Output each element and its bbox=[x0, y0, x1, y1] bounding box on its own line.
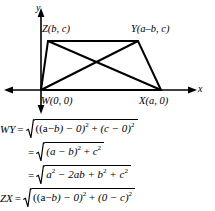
eq4-p1: ((a bbox=[33, 191, 45, 203]
eq4-exp2: 2 bbox=[129, 190, 133, 198]
equation-3-radicand: a2 − 2ab + b2 + c2 bbox=[45, 165, 131, 185]
coordinate-plane-figure: y x Z(b, c) Y(a–b, c) W(0, 0) X(a, 0) bbox=[0, 0, 215, 120]
figure-graphic bbox=[0, 0, 215, 120]
equation-1-lhs: WY bbox=[0, 118, 15, 135]
equation-4-equals: = bbox=[13, 187, 23, 204]
equation-2-equals: = bbox=[26, 141, 36, 158]
eq3-exp3: 2 bbox=[124, 167, 128, 175]
eq4-p3: b) − 0) bbox=[52, 191, 83, 203]
radical-sign-icon bbox=[26, 119, 35, 139]
eq4-exp1: 2 bbox=[83, 190, 87, 198]
eq1-exp1: 2 bbox=[85, 121, 89, 129]
equation-line-4: ZX = ((a−b) − 0)2 + (0 − c)2 bbox=[0, 187, 215, 210]
eq2-exp1: 2 bbox=[77, 144, 81, 152]
eq4-p4: (0 − c) bbox=[98, 191, 129, 203]
equation-1-equals: = bbox=[15, 118, 25, 135]
equation-1-radical: ((a−b) − 0)2 + (c − 0)2 bbox=[26, 119, 138, 139]
equation-line-2: = (a − b)2 + c2 bbox=[0, 141, 215, 164]
eq2-plus: + bbox=[84, 145, 90, 157]
eq3-exp2: 2 bbox=[103, 167, 107, 175]
vertex-label-w: W(0, 0) bbox=[41, 96, 73, 107]
eq2-exp2: 2 bbox=[98, 144, 102, 152]
eq3-plus2: + c bbox=[109, 168, 124, 180]
eq1-p1: ((a bbox=[36, 122, 48, 134]
equation-1-radicand: ((a−b) − 0)2 + (c − 0)2 bbox=[35, 119, 138, 139]
equation-4-radicand: ((a−b) − 0)2 + (0 − c)2 bbox=[32, 188, 135, 208]
equation-2-radical: (a − b)2 + c2 bbox=[36, 142, 104, 162]
eq3-exp1: 2 bbox=[52, 167, 56, 175]
eq1-p4: (c − 0) bbox=[100, 122, 131, 134]
diagonal-WY bbox=[41, 41, 138, 90]
vertex-label-x: X(a, 0) bbox=[139, 96, 168, 107]
equation-line-1: WY = ((a−b) − 0)2 + (c − 0)2 bbox=[0, 118, 215, 141]
radical-sign-icon bbox=[36, 165, 45, 185]
eq4-plus: + bbox=[89, 191, 95, 203]
figure-page: y x Z(b, c) Y(a–b, c) W(0, 0) X(a, 0) WY… bbox=[0, 0, 215, 211]
eq3-plus1: + b bbox=[87, 168, 103, 180]
equation-2-radicand: (a − b)2 + c2 bbox=[45, 142, 104, 162]
radical-sign-icon bbox=[23, 188, 32, 208]
eq3-minus: − 2ab bbox=[58, 168, 85, 180]
equation-3-radical: a2 − 2ab + b2 + c2 bbox=[36, 165, 131, 185]
diagonals bbox=[41, 41, 161, 90]
derivation-equations: WY = ((a−b) − 0)2 + (c − 0)2 = bbox=[0, 118, 215, 210]
diagonal-ZX bbox=[48, 41, 161, 90]
equation-4-radical: ((a−b) − 0)2 + (0 − c)2 bbox=[23, 188, 135, 208]
eq1-plus: + bbox=[91, 122, 97, 134]
equation-4-lhs: ZX bbox=[0, 187, 13, 204]
eq2-p1: (a − b) bbox=[46, 145, 77, 157]
vertex-label-y: Y(a–b, c) bbox=[131, 24, 170, 35]
y-axis-label: y bbox=[36, 3, 40, 13]
eq1-p3: b) − 0) bbox=[54, 122, 85, 134]
equation-3-equals: = bbox=[26, 164, 36, 181]
eq1-exp2: 2 bbox=[131, 121, 135, 129]
radical-sign-icon bbox=[36, 142, 45, 162]
equation-line-3: = a2 − 2ab + b2 + c2 bbox=[0, 164, 215, 187]
vertex-label-z: Z(b, c) bbox=[42, 24, 70, 35]
x-axis-label: x bbox=[198, 84, 202, 94]
